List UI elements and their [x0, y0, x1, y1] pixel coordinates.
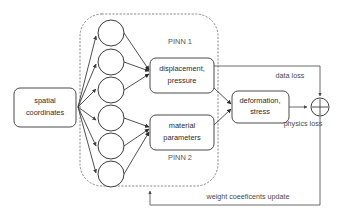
displacement-pressure-label-line1: displacement,	[159, 64, 205, 73]
data-loss-label: data loss	[276, 71, 305, 80]
deformation-stress-label-line2: stress	[250, 107, 270, 116]
edge-neuron3-to-displacement	[124, 74, 149, 90]
neuron-pinn1-3[interactable]	[98, 77, 124, 103]
weight-update-label: weight coeeficents update	[205, 192, 289, 201]
diagram-canvas: spatial coordinates PINN 1 PINN 2 displa…	[0, 0, 342, 216]
pinn1-group-label: PINN 1	[168, 37, 192, 46]
neuron-pinn2-2[interactable]	[98, 133, 124, 159]
edge-material-to-deformation	[214, 109, 231, 125]
material-parameters-label-line1: material	[169, 121, 196, 130]
neuron-pinn1-1[interactable]	[98, 20, 124, 46]
pinn2-group-label: PINN 2	[168, 153, 192, 162]
edge-neuron1-to-displacement	[124, 33, 149, 70]
spatial-coordinates-label-line2: coordinates	[26, 108, 65, 117]
physics-loss-label: physics loss	[284, 119, 323, 128]
deformation-stress-label-line1: deformation,	[239, 96, 280, 105]
neuron-pinn1-2[interactable]	[98, 49, 124, 75]
displacement-pressure-label-line2: pressure	[168, 76, 197, 85]
edge-neuron6-to-material	[124, 132, 149, 174]
edge-neuron4-to-material	[124, 118, 149, 127]
material-parameters-label-line2: parameters	[163, 133, 201, 142]
neuron-pinn2-1[interactable]	[98, 105, 124, 131]
neuron-pinn2-3[interactable]	[98, 161, 124, 187]
pinn-architecture-diagram: spatial coordinates PINN 1 PINN 2 displa…	[0, 0, 342, 216]
edge-neuron2-to-displacement	[124, 62, 149, 71]
spatial-coordinates-label-line1: spatial	[34, 96, 56, 105]
edge-displacement-to-deformation	[214, 88, 231, 104]
